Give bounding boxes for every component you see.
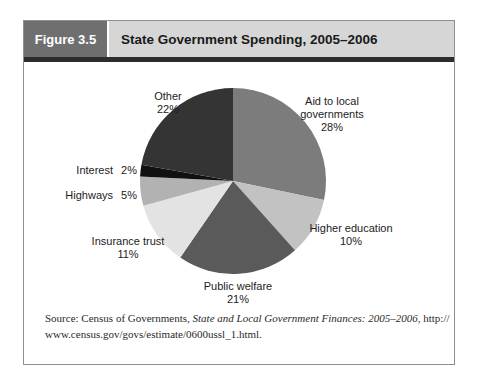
slice-label-pct: 2% xyxy=(121,164,137,176)
slice-label-pct: 28% xyxy=(282,121,382,134)
source-prefix: Source: Census of Governments, xyxy=(45,312,193,324)
source-line-2: www.census.gov/govs/estimate/0600ussl_1.… xyxy=(45,327,441,343)
slice-label-pct: 21% xyxy=(183,293,293,306)
figure-header: Figure 3.5 State Government Spending, 20… xyxy=(24,21,454,57)
slice-label-other: Other 22% xyxy=(128,90,208,116)
source-url-start: http:// xyxy=(423,312,449,324)
slice-label-pct: 11% xyxy=(73,248,183,261)
slice-label-text: Public welfare xyxy=(204,280,272,292)
figure-box: Figure 3.5 State Government Spending, 20… xyxy=(23,20,455,365)
source-italic-title: State and Local Government Finances: 200… xyxy=(193,312,418,324)
figure-number: Figure 3.5 xyxy=(24,21,109,57)
slice-label-pct: 10% xyxy=(286,235,416,248)
slice-label-text: Aid to local governments xyxy=(300,95,364,120)
slice-label-aid-to-local-governments: Aid to local governments 28% xyxy=(282,95,382,134)
slice-label-insurance-trust: Insurance trust 11% xyxy=(73,235,183,261)
source-line-1: Source: Census of Governments, State and… xyxy=(45,311,441,327)
slice-label-higher-education: Higher education 10% xyxy=(286,222,416,248)
source-url-end: www.census.gov/govs/estimate/0600ussl_1.… xyxy=(45,328,262,340)
slice-label-text: Interest xyxy=(76,164,113,176)
slice-label-pct: 22% xyxy=(128,103,208,116)
slice-label-text: Other xyxy=(154,90,182,102)
slice-label-text: Highways xyxy=(65,189,113,201)
chart-area: Other 22% Aid to local governments 28% I… xyxy=(24,62,454,363)
slice-label-pct: 5% xyxy=(121,189,137,201)
source-citation: Source: Census of Governments, State and… xyxy=(45,311,441,342)
slice-label-public-welfare: Public welfare 21% xyxy=(183,280,293,306)
slice-label-text: Higher education xyxy=(309,222,392,234)
slice-label-text: Insurance trust xyxy=(92,235,165,247)
figure-title: State Government Spending, 2005–2006 xyxy=(109,21,454,57)
slice-label-interest: Interest 2% xyxy=(27,164,137,177)
slice-label-highways: Highways 5% xyxy=(27,189,137,202)
